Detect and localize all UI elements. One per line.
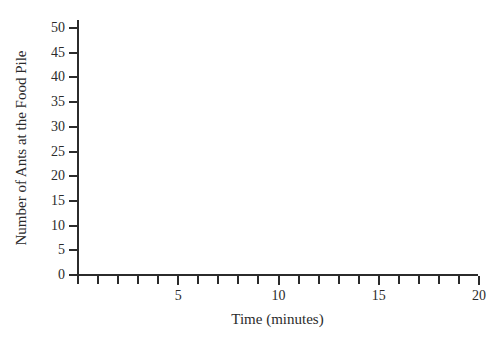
y-tick-15	[69, 200, 77, 202]
x-tick-20	[478, 276, 480, 285]
x-tick-14	[358, 276, 360, 284]
chart-figure: Number of Ants at the Food Pile 05101520…	[0, 0, 502, 348]
y-tick-label-25: 25	[31, 145, 65, 159]
y-tick-40	[69, 76, 77, 78]
x-tick-label-10: 10	[259, 289, 299, 303]
y-tick-label-45: 45	[31, 46, 65, 60]
x-tick-7	[217, 276, 219, 284]
y-tick-10	[69, 225, 77, 227]
y-tick-label-20: 20	[31, 169, 65, 183]
x-tick-label-20: 20	[459, 289, 499, 303]
x-tick-3	[137, 276, 139, 284]
x-tick-15	[378, 276, 380, 285]
x-tick-16	[398, 276, 400, 284]
x-tick-4	[157, 276, 159, 284]
x-tick-label-15: 15	[359, 289, 399, 303]
x-tick-2	[117, 276, 119, 284]
x-tick-0	[77, 276, 79, 284]
y-tick-25	[69, 151, 77, 153]
x-tick-label-5: 5	[158, 289, 198, 303]
plot-area	[79, 28, 478, 274]
x-tick-5	[177, 276, 179, 285]
y-tick-label-10: 10	[31, 219, 65, 233]
x-tick-9	[257, 276, 259, 284]
y-tick-50	[69, 27, 77, 29]
y-tick-35	[69, 101, 77, 103]
x-axis-title: Time (minutes)	[77, 312, 478, 327]
x-tick-11	[298, 276, 300, 284]
x-tick-12	[318, 276, 320, 284]
y-tick-label-40: 40	[31, 70, 65, 84]
y-tick-30	[69, 126, 77, 128]
x-tick-1	[97, 276, 99, 284]
y-tick-label-35: 35	[31, 95, 65, 109]
y-tick-label-0: 0	[31, 268, 65, 282]
x-tick-10	[278, 276, 280, 285]
y-tick-label-5: 5	[31, 243, 65, 257]
y-tick-45	[69, 52, 77, 54]
y-tick-label-50: 50	[31, 21, 65, 35]
y-tick-5	[69, 249, 77, 251]
x-tick-13	[338, 276, 340, 284]
y-tick-label-15: 15	[31, 194, 65, 208]
x-tick-6	[197, 276, 199, 284]
x-tick-17	[418, 276, 420, 284]
x-tick-8	[237, 276, 239, 284]
y-tick-0	[69, 274, 77, 276]
y-axis-title-text: Number of Ants at the Food Pile	[14, 51, 29, 246]
x-tick-18	[438, 276, 440, 284]
y-tick-label-30: 30	[31, 120, 65, 134]
x-tick-19	[458, 276, 460, 284]
y-tick-20	[69, 175, 77, 177]
